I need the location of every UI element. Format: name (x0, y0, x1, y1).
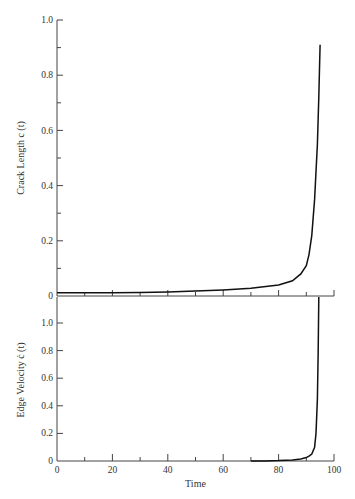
edge-velocity-curve (251, 297, 319, 461)
bottom-chart: 1.0 0.8 0.6 0.4 0.2 0 0 20 40 60 80 100 … (15, 297, 341, 489)
bottom-y-axis-label: Edge Velocity ċ (t) (15, 342, 27, 417)
top-ytick-0.8: 0.8 (41, 70, 53, 80)
xtick-20: 20 (108, 465, 118, 475)
bottom-ytick-0: 0 (48, 456, 53, 466)
top-ytick-0.4: 0.4 (41, 181, 53, 191)
xtick-60: 60 (218, 465, 228, 475)
bottom-ytick-0.6: 0.6 (41, 373, 53, 383)
crack-length-curve (57, 45, 320, 293)
top-ytick-1.0: 1.0 (41, 15, 53, 25)
xtick-0: 0 (55, 465, 60, 475)
top-y-axis-label: Crack Length c (t) (15, 121, 27, 195)
bottom-y-ticks (57, 323, 63, 433)
bottom-ytick-0.8: 0.8 (41, 346, 53, 356)
bottom-ytick-1.0: 1.0 (41, 318, 53, 328)
xtick-80: 80 (274, 465, 284, 475)
stacked-line-charts: 1.0 0.8 0.6 0.4 0.2 0 Crack Length c (t) (0, 0, 355, 499)
top-chart: 1.0 0.8 0.6 0.4 0.2 0 Crack Length c (t) (15, 15, 334, 301)
top-ytick-0: 0 (48, 291, 53, 301)
top-ytick-0.2: 0.2 (41, 236, 53, 246)
xtick-100: 100 (327, 465, 342, 475)
bottom-ytick-0.4: 0.4 (41, 401, 53, 411)
xtick-40: 40 (163, 465, 173, 475)
bottom-ytick-0.2: 0.2 (41, 428, 53, 438)
x-axis-label: Time (185, 478, 206, 489)
top-y-ticks (57, 20, 63, 268)
top-ytick-0.6: 0.6 (41, 126, 53, 136)
